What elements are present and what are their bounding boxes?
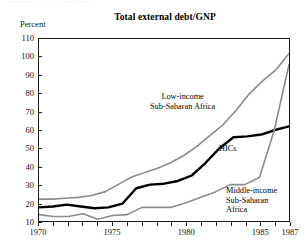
x-tick-mark — [157, 222, 158, 226]
y-tick-label: 70 — [0, 107, 34, 117]
x-tick-mark — [246, 222, 247, 226]
x-tick-mark — [260, 222, 261, 226]
x-tick-mark — [127, 222, 128, 226]
y-tick-label: 60 — [0, 125, 34, 135]
clipped-header-text: ……… ……… … …… — [8, 0, 298, 5]
x-tick-mark — [231, 222, 232, 226]
series-line — [39, 54, 289, 200]
y-tick-label: 110 — [0, 33, 34, 43]
y-tick-label: 20 — [0, 199, 34, 209]
x-tick-mark — [38, 222, 39, 226]
x-tick-mark — [97, 222, 98, 226]
chart-page: ……… ……… … …… Percent Total external debt… — [0, 0, 308, 248]
x-tick-mark — [82, 222, 83, 226]
y-tick-label: 90 — [0, 70, 34, 80]
x-tick-mark — [216, 222, 217, 226]
hics-label: HICs — [219, 144, 237, 154]
x-tick-label: 1970 — [18, 227, 58, 237]
x-tick-mark — [142, 222, 143, 226]
x-tick-mark — [112, 222, 113, 226]
x-tick-label: 1980 — [166, 227, 206, 237]
x-tick-mark — [186, 222, 187, 226]
middle-income-label: Middle-income Sub-Saharan Africa — [226, 186, 277, 215]
y-tick-label: 80 — [0, 88, 34, 98]
x-tick-mark — [275, 222, 276, 226]
y-tick-label: 10 — [0, 217, 34, 227]
x-tick-mark — [201, 222, 202, 226]
y-tick-label: 40 — [0, 162, 34, 172]
x-tick-mark — [53, 222, 54, 226]
y-tick-label: 50 — [0, 143, 34, 153]
x-tick-label: 1987 — [270, 227, 308, 237]
y-tick-label: 30 — [0, 180, 34, 190]
x-tick-mark — [171, 222, 172, 226]
x-tick-mark — [290, 222, 291, 226]
y-tick-label: 100 — [0, 51, 34, 61]
x-tick-label: 1975 — [92, 227, 132, 237]
chart-title: Total external debt/GNP — [0, 12, 308, 22]
low-income-label: Low-income Sub-Saharan Africa — [150, 92, 215, 111]
x-tick-mark — [68, 222, 69, 226]
